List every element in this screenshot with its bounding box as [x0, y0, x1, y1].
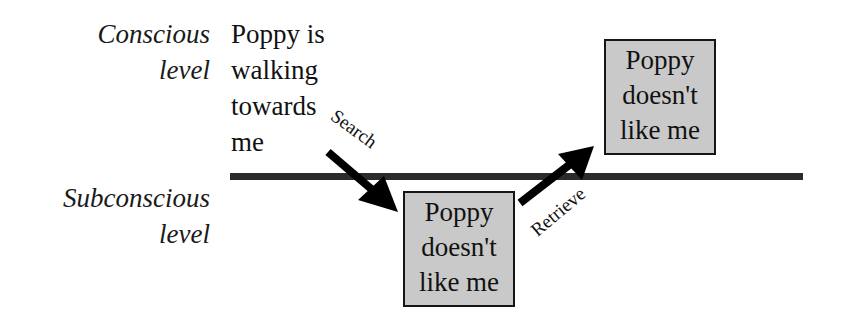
search-arrow-icon: [328, 152, 398, 212]
arrows-layer: [0, 0, 844, 330]
